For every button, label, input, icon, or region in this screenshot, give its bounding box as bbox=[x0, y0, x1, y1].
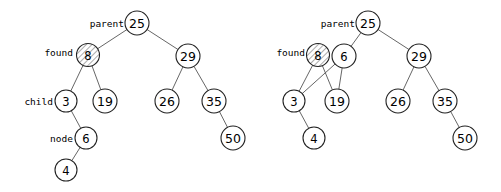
tree-edge bbox=[322, 66, 332, 90]
tree-edge bbox=[351, 33, 361, 47]
pointer-annotation-node: node bbox=[50, 133, 73, 144]
tree-edge bbox=[425, 66, 439, 90]
node-value-label: 19 bbox=[329, 94, 345, 109]
node-value-label: 4 bbox=[310, 132, 317, 146]
tree-edge bbox=[299, 111, 309, 129]
node-value-label: 26 bbox=[390, 94, 406, 109]
node-value-label: 29 bbox=[411, 49, 427, 64]
pointer-annotation-child: child bbox=[24, 96, 53, 107]
tree-node[interactable]: 8 bbox=[77, 44, 100, 67]
pointer-annotation-parent: parent bbox=[90, 18, 124, 29]
tree-node[interactable]: 6 bbox=[332, 44, 356, 68]
bst-deletion-figure: 25829319263565042586293192635450 parentf… bbox=[0, 0, 501, 192]
tree-node[interactable]: 19 bbox=[325, 89, 349, 113]
node-value-label: 6 bbox=[340, 50, 347, 64]
tree-edge bbox=[71, 111, 81, 129]
tree-node[interactable]: 50 bbox=[453, 126, 477, 150]
node-value-label: 4 bbox=[62, 164, 69, 178]
tree-node[interactable]: 6 bbox=[75, 127, 97, 149]
tree-edge bbox=[194, 66, 208, 90]
tree-node[interactable]: 3 bbox=[55, 90, 77, 112]
tree-edge bbox=[72, 147, 80, 160]
tree-node[interactable]: 19 bbox=[93, 89, 117, 113]
tree-edge bbox=[219, 112, 227, 128]
pointer-annotation-parent: parent bbox=[321, 18, 355, 29]
tree-edge bbox=[451, 112, 460, 128]
tree-edge bbox=[92, 66, 101, 90]
node-value-label: 25 bbox=[360, 16, 376, 31]
tree-node[interactable]: 3 bbox=[283, 90, 305, 112]
node-value-label: 25 bbox=[129, 16, 145, 31]
tree-node[interactable]: 35 bbox=[202, 89, 226, 113]
tree-node[interactable]: 4 bbox=[55, 159, 77, 181]
tree-node[interactable]: 25 bbox=[356, 11, 380, 35]
node-value-label: 8 bbox=[84, 49, 91, 63]
tree-edge bbox=[299, 65, 313, 91]
node-value-label: 3 bbox=[290, 95, 297, 109]
tree-node[interactable]: 26 bbox=[155, 89, 179, 113]
node-value-label: 8 bbox=[314, 49, 321, 63]
pointer-annotation-found: found bbox=[44, 47, 73, 58]
tree-edge bbox=[403, 67, 414, 90]
tree-edge bbox=[378, 30, 409, 50]
tree-node[interactable]: 50 bbox=[221, 126, 245, 150]
node-value-label: 26 bbox=[159, 94, 175, 109]
node-value-label: 3 bbox=[62, 95, 69, 109]
tree-edge bbox=[71, 65, 83, 91]
node-value-label: 29 bbox=[180, 49, 196, 64]
tree-edge bbox=[98, 30, 127, 49]
tree-node[interactable]: 29 bbox=[176, 44, 200, 68]
tree-node[interactable]: 29 bbox=[407, 44, 431, 68]
tree-node[interactable]: 26 bbox=[386, 89, 410, 113]
tree-node[interactable]: 35 bbox=[433, 89, 457, 113]
node-value-label: 50 bbox=[457, 131, 473, 146]
tree-node[interactable]: 4 bbox=[303, 127, 325, 149]
node-value-label: 19 bbox=[97, 94, 113, 109]
tree-node[interactable]: 25 bbox=[125, 11, 149, 35]
annotations-layer: parentfoundchildnodeparentfound bbox=[24, 18, 355, 144]
node-value-label: 35 bbox=[437, 94, 453, 109]
pointer-annotation-found: found bbox=[276, 47, 305, 58]
tree-edge bbox=[172, 67, 183, 90]
tree-edge bbox=[147, 30, 178, 50]
tree-node[interactable]: 8 bbox=[307, 44, 330, 67]
nodes-layer: 25829319263565042586293192635450 bbox=[55, 11, 477, 181]
node-value-label: 50 bbox=[225, 131, 241, 146]
tree-edge bbox=[302, 64, 335, 94]
tree-edge bbox=[339, 68, 342, 89]
tree-diagram-canvas: 25829319263565042586293192635450 parentf… bbox=[0, 0, 501, 192]
node-value-label: 6 bbox=[82, 132, 89, 146]
node-value-label: 35 bbox=[206, 94, 222, 109]
